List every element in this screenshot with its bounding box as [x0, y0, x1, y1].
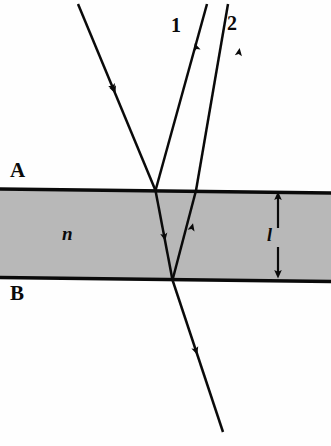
- surface-b-label: B: [10, 283, 24, 304]
- incident-ray-line: [78, 4, 156, 191]
- reflected-ray-1-line: [156, 4, 208, 191]
- ray-1-label: 1: [171, 15, 181, 35]
- reflected-ray-1-arrowhead: [196, 47, 204, 73]
- reflected-ray-2-arrowhead: [234, 52, 239, 82]
- ray-diagram-svg: [0, 0, 331, 446]
- reflected-ray-2-line: [196, 4, 228, 191]
- incident-ray-arrowhead: [100, 55, 114, 90]
- thickness-label: l: [267, 226, 272, 244]
- surface-a-label: A: [10, 160, 25, 181]
- transmitted-ray-line: [173, 280, 224, 432]
- ray-2-label: 2: [227, 13, 237, 33]
- transmitted-ray-arrowhead: [185, 318, 196, 351]
- film-slab: [0, 189, 331, 281]
- thin-film-interference-figure: A B 1 2 n l: [0, 0, 331, 446]
- refractive-index-label: n: [62, 224, 73, 243]
